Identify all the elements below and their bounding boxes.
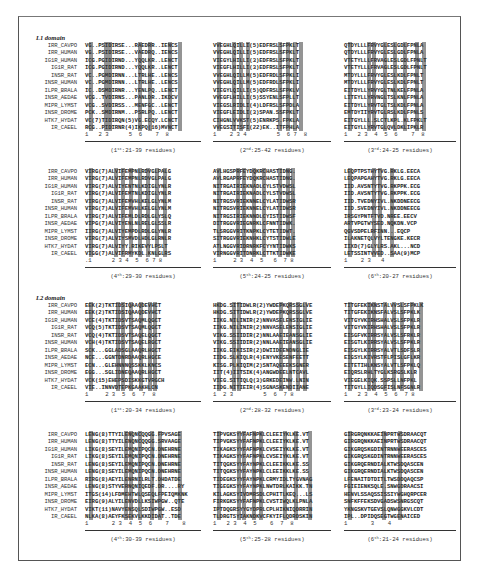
sequence-row: LITEYLLYRVNGLTSLKNLFPNLA xyxy=(344,94,456,101)
sequence-row: ITGS(14)LFDMEHTWLQSEQLFPEIQMKNK xyxy=(85,491,201,498)
sequence-row: EITGYLLYRVTGLQVLDKLIPKLR xyxy=(344,124,456,131)
sequence-row: VVEGFLHILLI(5)SSYENLSFPLLT xyxy=(213,94,331,101)
species-label: IRR_CAVPO xyxy=(19,42,77,49)
species-label: INSR_DROME xyxy=(19,498,77,505)
conserved-column-shade xyxy=(419,302,423,391)
sequence-rows: QTDYLLLFRVYGLESLGDLFPNLAQTDYLLLFRVYGLESL… xyxy=(344,42,456,131)
residue-range: :30-39 residues) xyxy=(122,536,176,543)
sequence-row: AVLHGSPRFEYDQKRCHASTIDNG. xyxy=(213,168,331,175)
block-caption: (2nd:25-42 residues) xyxy=(213,147,331,154)
sequence-row: LIKG(8)SEYILEMQNIPQCN.DNEHRNE xyxy=(85,446,201,453)
block-caption: (6th:20-27 residues) xyxy=(344,273,456,280)
sequence-row: EMTDYIIYRVTGLRSLKDLFPNLS xyxy=(344,109,456,116)
position-numbers: 1 2 3 5 6 7 8 xyxy=(213,391,331,398)
conserved-column-shade xyxy=(89,168,93,257)
species-label: MIPR_LYMST xyxy=(19,491,77,498)
conserved-column-shade xyxy=(89,302,93,391)
block-underline xyxy=(85,530,201,531)
sequence-rows: AVLHGSPRFEYDQKRCHASTIDNG.AVLRGAPRFEYDQKR… xyxy=(213,168,331,257)
conserved-column-shade xyxy=(124,431,128,520)
sequence-row: EIRG(9)ALYILENVDLLKSIWPGW..QTE xyxy=(85,498,201,505)
sequence-rows: HKDG.SITIDWLR(2)YWDEPKQRSSGLVEHKDG.SITID… xyxy=(213,302,331,391)
species-label: INSR_RAT xyxy=(19,461,77,468)
conserved-column-shade xyxy=(129,431,133,520)
conserved-column-shade xyxy=(378,168,382,257)
sequence-row: VG..PSIDIRSE...VAEDRQ..IENCS xyxy=(85,49,201,56)
sequence-row: VIEGFLHILLI(3)EDFRSLSFPKLT xyxy=(213,64,331,71)
position-numbers: 1 2 3 5 6 7 8 xyxy=(85,131,201,138)
species-label: IR_CAEEL xyxy=(19,513,77,520)
conserved-column-shade xyxy=(288,302,292,391)
sequence-row: SITRGGVRIEKNHKLCYTSTIDWLE xyxy=(213,235,331,242)
position-numbers: 1 2 3 4 5 6 7 8 xyxy=(344,131,456,138)
species-names: IRR_CAVPOIRR_HUMANIG1R_HUMANIG1R_RATINSR… xyxy=(19,168,77,257)
species-label: HTK7_HYDAT xyxy=(19,117,77,124)
residue-range: :21-24 residues) xyxy=(379,536,433,543)
alignment-block: TITGFEKIKNSTALVVSLSFPKLKTITGFEKIKNSFALVS… xyxy=(344,302,456,414)
species-label: ILPR_BRALA xyxy=(19,347,77,354)
sequence-row: LENG(8)SEYILEMQNIPQCN.DNEHRNE xyxy=(85,468,201,475)
sequence-row: VIGG(7)ALVIFRMYKDL.KNLGLRS xyxy=(85,250,201,257)
conserved-column-shade xyxy=(382,431,386,520)
residue-range: :25-42 residues) xyxy=(251,147,305,154)
sequence-row: TIGEGKSYYFAYNPKLNWTDRLKAIKK.TN xyxy=(213,483,331,490)
sequence-row: RCG..PIDIRNR(4)IKPQ(16)MVNCT xyxy=(85,124,201,131)
conserved-column-shade xyxy=(348,431,352,520)
conserved-column-shade xyxy=(299,42,303,131)
sequence-row: KISG.PLKIQIM(2)SNTAQEEEKSGNER xyxy=(213,362,331,369)
sequence-row: TIPVGKSYYFAFNPKLCLEEIYKLKE.VT xyxy=(213,431,331,438)
position-numbers: 1 2 3 4 5 6 7 8 xyxy=(344,391,456,398)
sequence-row: LENG(8)STYVERNQNIQEDF.DR....RY xyxy=(85,483,201,490)
residue-range: :28-32 residues) xyxy=(251,407,305,414)
sequence-row: VIRNGGVRITDNRKLCTTKTIDWKE xyxy=(213,250,331,257)
alignment-block: VVEGHLQILLI(5)EDFRSLSFPKLTVVEGHLQILLI(5)… xyxy=(213,42,331,154)
sequence-row: VIKT(11)NAVYENSQLSDIWPGW..ESD xyxy=(85,506,201,513)
block-underline xyxy=(85,267,201,268)
residue-range: :24-25 residues) xyxy=(251,273,305,280)
species-label: INSR_AEDAE xyxy=(19,354,77,361)
conserved-column-shade xyxy=(217,431,221,520)
sequence-row: VIRG(7)ALVIYY.RIKEVYLPSLT xyxy=(85,243,201,250)
species-label: INSR_DROME xyxy=(19,235,77,242)
sequence-rows: EEK(2)TKTIDSIQAAQDEVHCTEEK(2)TKTIDSIQAAQ… xyxy=(85,302,201,391)
species-label: IR_CAEEL xyxy=(19,124,77,131)
residue-range: :20-27 residues) xyxy=(379,273,433,280)
block-caption: (2nd:28-32 residues) xyxy=(213,407,331,414)
conserved-column-shade xyxy=(279,302,283,391)
sequence-row: VCG..TVDIRNS...PANLDR..IKDCV xyxy=(85,94,201,101)
conserved-column-shade xyxy=(278,168,282,257)
sequence-row: AVLRGAPRFEYDQKRCHASTIDNG. xyxy=(213,175,331,182)
sequence-row: HKDG.SITIDWLR(2)YWDEPKQRSSGLVE xyxy=(213,302,331,309)
position-numbers: 1 2 3 4 5 6 7 8 xyxy=(213,257,331,264)
sequence-row: IIT(4)IITSIK(4)ANGWDEELNTCAVL xyxy=(213,369,331,376)
species-label: IRR_HUMAN xyxy=(19,309,77,316)
conserved-column-shade xyxy=(217,42,221,131)
conserved-column-shade xyxy=(367,42,371,131)
block-underline xyxy=(344,530,456,531)
sequence-row: IID.TVEDNYIVL.NKDDNEECG xyxy=(344,198,456,205)
conserved-column-shade xyxy=(114,168,118,257)
sequence-row: VG..PSIDIRSE...RAEDRR..IENCS xyxy=(85,42,201,49)
conserved-column-shade xyxy=(155,168,159,257)
sequence-row: IID.SVEDNYIVL.NKDDNEECG xyxy=(344,205,456,212)
conserved-column-shade xyxy=(252,431,256,520)
conserved-column-shade xyxy=(178,42,182,131)
conserved-column-shade xyxy=(308,431,312,520)
alignment-block: AVLHGSPRFEYDQKRCHASTIDNG.AVLRGAPRFEYDQKR… xyxy=(213,168,331,280)
sequence-row: NITRGSVRIEKNNELCYLATIDWSR xyxy=(213,198,331,205)
sequence-row: QGVSDPELRFINN...EQCP xyxy=(344,228,456,235)
sequence-row: NITRGAIRIEKNADLCYLSTVDWSL xyxy=(213,183,331,190)
species-label: IRR_CAVPO xyxy=(19,168,77,175)
sequence-rows: VG..PSIDIRSE...RAEDRR..IENCSVG..PSIDIRSE… xyxy=(85,42,201,131)
sequence-rows: GIRGRQNKKAEINPRTWSDRAACQTGIRGRQNKKAEINPR… xyxy=(344,431,456,520)
species-label: ILPR_BRALA xyxy=(19,213,77,220)
sequence-row: VIRG(7)ALVIFEMVHLKELGLYNLM xyxy=(85,198,201,205)
conserved-column-shade xyxy=(89,42,93,131)
conserved-column-shade xyxy=(348,168,352,257)
sequence-row: FIRKGKSYYFAFNPKLCVSTIWQLKLPNLA xyxy=(213,498,331,505)
species-names: IRR_CAVPOIRR_HUMANIG1R_HUMANIG1R_RATINSR… xyxy=(19,302,77,391)
conserved-column-shade xyxy=(236,168,240,257)
conserved-column-shade xyxy=(237,302,241,391)
species-label: MIPR_LYMST xyxy=(19,102,77,109)
sequence-row: CIHGNLVVKST(5)ENRKPS.FPKLA xyxy=(213,117,331,124)
